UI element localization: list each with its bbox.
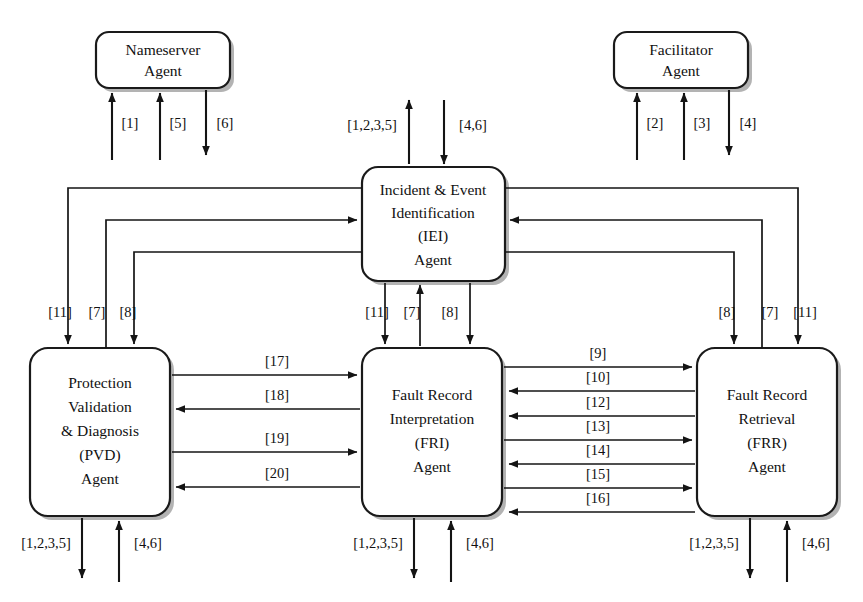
- edge-label-fri-out: [1,2,3,5]: [353, 535, 403, 551]
- node-label: Agent: [81, 470, 120, 487]
- node-label: Fault Record: [392, 386, 473, 403]
- edge-label-17: [17]: [265, 353, 289, 369]
- node-label: Incident & Event: [380, 181, 487, 198]
- node-label: Agent: [748, 458, 787, 475]
- edge-label-right-11: [11]: [793, 304, 817, 320]
- node-iei[interactable]: Incident & Event Identification (IEI) Ag…: [362, 167, 509, 285]
- edge-label-center-8: [8]: [442, 304, 459, 320]
- edge-iei-pvd-8: [134, 252, 362, 344]
- node-label: Agent: [144, 62, 183, 79]
- iei-top-external-links: [1,2,3,5] [4,6]: [347, 100, 487, 164]
- edge-label-18: [18]: [265, 387, 289, 403]
- node-label: Fault Record: [727, 386, 808, 403]
- node-fri[interactable]: Fault Record Interpretation (FRI) Agent: [362, 348, 506, 520]
- edge-label-14: [14]: [586, 442, 610, 458]
- fri-frr-links: [9] [10] [12] [13] [14] [15] [16]: [504, 345, 695, 512]
- node-label: Identification: [391, 204, 475, 221]
- edge-label-left-11: [11]: [48, 304, 72, 320]
- edge-pvd-iei-7: [106, 220, 357, 348]
- edge-label-nameserver-6: [6]: [217, 115, 234, 131]
- edge-label-pvd-in: [4,6]: [134, 535, 162, 551]
- node-label: Interpretation: [390, 410, 475, 427]
- edge-iei-frr-8: [505, 252, 734, 344]
- node-label: Facilitator: [649, 41, 714, 58]
- edge-iei-frr-11: [505, 188, 798, 344]
- edge-label-right-8: [8]: [719, 304, 736, 320]
- edge-label-facilitator-4: [4]: [740, 115, 757, 131]
- edge-frr-iei-7: [510, 220, 762, 348]
- node-label: (PVD): [79, 446, 120, 464]
- edge-label-15: [15]: [586, 466, 610, 482]
- frr-bottom-external-links: [1,2,3,5] [4,6]: [689, 518, 830, 582]
- edge-label-16: [16]: [586, 490, 610, 506]
- node-label: (IEI): [418, 227, 448, 245]
- node-label: Retrieval: [739, 410, 796, 427]
- facilitator-external-links: [2] [3] [4]: [637, 90, 756, 160]
- edge-label-iei-out: [1,2,3,5]: [347, 117, 397, 133]
- edge-label-9: [9]: [590, 345, 607, 361]
- edge-label-nameserver-5: [5]: [170, 115, 187, 131]
- edge-label-frr-in: [4,6]: [802, 535, 830, 551]
- nameserver-external-links: [1] [5] [6]: [112, 90, 233, 160]
- node-label: Agent: [414, 251, 453, 268]
- iei-fri-bus: [11] [7] [8]: [365, 283, 470, 346]
- edge-iei-pvd-11: [68, 188, 362, 344]
- pvd-bottom-external-links: [1,2,3,5] [4,6]: [21, 518, 162, 582]
- edge-label-facilitator-2: [2]: [647, 115, 664, 131]
- node-pvd[interactable]: Protection Validation & Diagnosis (PVD) …: [30, 348, 174, 520]
- edge-label-center-7: [7]: [404, 304, 421, 320]
- node-nameserver[interactable]: Nameserver Agent: [96, 32, 234, 92]
- fri-bottom-external-links: [1,2,3,5] [4,6]: [353, 518, 494, 582]
- node-label: Agent: [413, 458, 452, 475]
- node-label: & Diagnosis: [61, 422, 139, 439]
- node-label: Nameserver: [126, 41, 202, 58]
- edge-label-left-7: [7]: [89, 304, 106, 320]
- node-facilitator[interactable]: Facilitator Agent: [614, 32, 752, 92]
- edge-label-center-11: [11]: [365, 304, 389, 320]
- iei-pvd-bus: [11] [7] [8]: [48, 188, 362, 348]
- edge-label-right-7: [7]: [762, 304, 779, 320]
- node-label: (FRR): [747, 434, 787, 452]
- edge-label-frr-out: [1,2,3,5]: [689, 535, 739, 551]
- node-label: Agent: [662, 62, 701, 79]
- node-label: Validation: [68, 398, 132, 415]
- node-label: (FRI): [415, 434, 449, 452]
- edge-label-facilitator-3: [3]: [694, 115, 711, 131]
- iei-frr-bus: [11] [7] [8]: [505, 188, 817, 348]
- edge-label-pvd-out: [1,2,3,5]: [21, 535, 71, 551]
- edge-label-13: [13]: [586, 418, 610, 434]
- edge-label-10: [10]: [586, 369, 610, 385]
- agent-architecture-diagram: Nameserver Agent Facilitator Agent Incid…: [0, 0, 863, 602]
- edge-label-12: [12]: [586, 394, 610, 410]
- edge-label-fri-in: [4,6]: [466, 535, 494, 551]
- edge-label-iei-in: [4,6]: [459, 117, 487, 133]
- node-label: Protection: [68, 374, 132, 391]
- edge-label-left-8: [8]: [120, 304, 137, 320]
- edge-label-nameserver-1: [1]: [122, 115, 139, 131]
- edge-label-20: [20]: [265, 465, 289, 481]
- edge-label-19: [19]: [265, 430, 289, 446]
- node-frr[interactable]: Fault Record Retrieval (FRR) Agent: [697, 348, 841, 520]
- pvd-fri-links: [17] [18] [19] [20]: [172, 353, 360, 487]
